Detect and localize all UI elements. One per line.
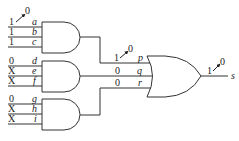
- input-c-value: 1: [9, 36, 14, 47]
- input-a-change: 0: [25, 5, 30, 16]
- input-c-label: c: [32, 36, 37, 47]
- input-p-label: p: [137, 52, 143, 63]
- and-gate-3-body: [42, 99, 80, 130]
- and-gate-1: 1 0 a 1 b 1 c: [8, 5, 80, 53]
- or-gate-body: [147, 56, 201, 97]
- logic-circuit-diagram: 1 0 a 1 b 1 c 0 d X e X f 0 g X h X i 1: [0, 0, 239, 141]
- input-f-label: f: [33, 75, 37, 86]
- input-p-change: 0: [128, 43, 133, 54]
- output-s-label: s: [231, 70, 235, 81]
- input-i-value: X: [8, 113, 16, 124]
- and-gate-1-body: [42, 22, 80, 53]
- input-r-label: r: [138, 77, 142, 88]
- wire-r: [80, 88, 152, 115]
- and-gate-3: 0 g X h X i: [8, 93, 80, 130]
- and-gate-2: 0 d X e X f: [8, 55, 80, 92]
- input-p-value: 1: [114, 52, 119, 63]
- input-i-label: i: [34, 113, 37, 124]
- output-s-change: 0: [220, 56, 225, 67]
- change-arrow-icon: [213, 65, 219, 71]
- input-f-value: X: [8, 75, 16, 86]
- input-q-value: 0: [115, 65, 120, 76]
- output-s-value: 1: [207, 65, 212, 76]
- input-r-value: 0: [115, 77, 120, 88]
- input-q-label: q: [137, 65, 142, 76]
- change-arrow-icon: [120, 52, 127, 58]
- and-gate-2-body: [42, 61, 80, 92]
- change-arrow-icon: [16, 15, 24, 22]
